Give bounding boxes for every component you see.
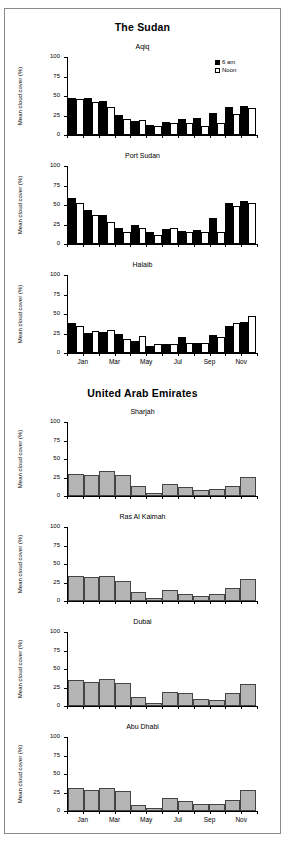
month-group — [99, 527, 115, 601]
month-group — [162, 166, 178, 244]
x-axis-tick — [162, 811, 163, 814]
month-group — [131, 275, 147, 353]
chart-ras-al-kaimah: Ras Al KaimahMean cloud cover (%)1007550… — [5, 513, 280, 616]
y-axis-tick-label: 50 — [46, 92, 60, 98]
bar — [107, 330, 115, 353]
bar — [84, 577, 100, 601]
month-group — [146, 737, 162, 811]
month-group — [84, 527, 100, 601]
x-axis-tick — [194, 496, 195, 499]
bar — [162, 229, 170, 244]
x-axis-tick — [210, 496, 211, 499]
x-axis-tick-label: Sep — [198, 816, 222, 823]
x-axis-tick — [225, 811, 226, 814]
bar — [92, 102, 100, 135]
y-axis-tick-label: 50 — [46, 455, 60, 461]
bar — [162, 344, 170, 353]
month-group — [146, 422, 162, 496]
month-group — [193, 275, 209, 353]
x-axis-tick — [146, 244, 147, 247]
bar — [170, 123, 178, 135]
bar — [209, 335, 217, 353]
x-axis-tick — [130, 244, 131, 247]
bar — [115, 475, 131, 496]
month-group — [209, 737, 225, 811]
x-axis-tick — [115, 601, 116, 604]
x-axis-tick — [162, 244, 163, 247]
month-group — [193, 632, 209, 706]
month-group — [131, 57, 147, 135]
x-axis-tick — [99, 601, 100, 604]
bar — [233, 323, 241, 353]
bar — [131, 225, 139, 244]
bar — [225, 486, 241, 496]
x-axis-tick — [67, 353, 68, 356]
x-axis-tick — [241, 135, 242, 138]
month-group — [146, 527, 162, 601]
bar — [68, 680, 84, 706]
y-axis-tick — [64, 459, 67, 460]
x-axis-tick-label: Sep — [198, 358, 222, 365]
bar — [146, 493, 162, 496]
month-group — [115, 632, 131, 706]
bar — [170, 344, 178, 353]
y-axis-tick — [64, 205, 67, 206]
legend-item-noon: Noon — [215, 67, 236, 73]
x-axis-tick — [130, 496, 131, 499]
bar — [240, 790, 256, 811]
bar — [92, 215, 100, 244]
y-axis-tick-label: 50 — [46, 665, 60, 671]
x-axis-tick — [83, 353, 84, 356]
bar — [146, 346, 154, 353]
bar — [193, 804, 209, 811]
bar — [84, 98, 92, 135]
bar — [154, 235, 162, 244]
bar — [68, 576, 84, 601]
x-axis-tick — [178, 244, 179, 247]
x-axis-tick — [241, 496, 242, 499]
y-axis-tick — [64, 583, 67, 584]
month-group — [240, 57, 256, 135]
bar — [178, 693, 194, 706]
x-axis-tick — [225, 244, 226, 247]
bar — [115, 791, 131, 811]
x-axis-tick — [130, 135, 131, 138]
y-axis-tick — [64, 275, 67, 276]
x-axis-tick — [210, 811, 211, 814]
bar-series-group — [68, 422, 256, 496]
bar — [201, 343, 209, 353]
bar — [162, 798, 178, 811]
month-group — [209, 422, 225, 496]
x-axis-tick — [146, 353, 147, 356]
bar — [209, 594, 225, 601]
month-group — [99, 275, 115, 353]
x-axis-tick — [257, 244, 258, 247]
bar — [201, 126, 209, 135]
x-axis-tick — [83, 135, 84, 138]
bar — [209, 218, 217, 244]
x-axis-tick — [83, 811, 84, 814]
bar — [201, 232, 209, 244]
bar — [154, 126, 162, 135]
x-axis-tick — [194, 811, 195, 814]
bar — [240, 201, 248, 244]
chart-title: Dubai — [5, 618, 280, 625]
month-group — [225, 166, 241, 244]
y-axis-tick — [64, 57, 67, 58]
x-axis-tick — [99, 811, 100, 814]
chart-halaib: HalaibMean cloud cover (%)1007550250JanM… — [5, 261, 280, 381]
y-axis-tick-label: 25 — [46, 330, 60, 336]
x-axis-tick — [257, 135, 258, 138]
x-axis-tick — [194, 244, 195, 247]
bar — [123, 119, 131, 135]
month-group — [193, 166, 209, 244]
month-group — [68, 275, 84, 353]
y-axis-tick — [64, 295, 67, 296]
y-axis-label: Mean cloud cover (%) — [17, 527, 23, 601]
month-group — [146, 57, 162, 135]
bar — [233, 114, 241, 135]
x-axis-tick — [99, 496, 100, 499]
bar-series-group — [68, 275, 256, 353]
y-axis-tick — [64, 564, 67, 565]
x-axis-tick — [225, 706, 226, 709]
